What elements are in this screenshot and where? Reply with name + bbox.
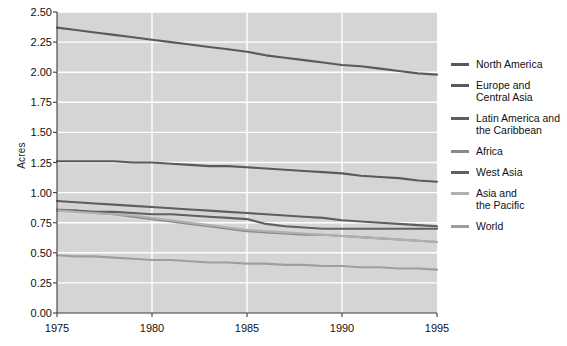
legend-item-label: Europe and Central Asia bbox=[476, 79, 533, 103]
legend-swatch-icon bbox=[451, 150, 469, 153]
chart-legend: North AmericaEurope and Central AsiaLati… bbox=[451, 58, 567, 241]
legend-swatch-icon bbox=[451, 225, 469, 228]
legend-item-label: Asia and the Pacific bbox=[476, 187, 524, 211]
legend-swatch-icon bbox=[451, 117, 469, 120]
legend-item[interactable]: Africa bbox=[451, 145, 567, 157]
x-axis-tick-label: 1985 bbox=[235, 322, 259, 334]
legend-item[interactable]: West Asia bbox=[451, 166, 567, 178]
legend-item-label: North America bbox=[476, 58, 543, 70]
legend-item-label: West Asia bbox=[476, 166, 523, 178]
legend-item[interactable]: Asia and the Pacific bbox=[451, 187, 567, 211]
legend-swatch-icon bbox=[451, 63, 469, 66]
x-axis-tick-label: 1975 bbox=[45, 322, 69, 334]
legend-item[interactable]: Europe and Central Asia bbox=[451, 79, 567, 103]
x-axis-tick-label: 1990 bbox=[330, 322, 354, 334]
x-axis-tick-label: 1995 bbox=[425, 322, 449, 334]
legend-item[interactable]: North America bbox=[451, 58, 567, 70]
legend-item-label: World bbox=[476, 220, 503, 232]
x-axis-tick-label: 1980 bbox=[140, 322, 164, 334]
legend-item[interactable]: Latin America and the Caribbean bbox=[451, 112, 567, 136]
chart-container: Acres 0.000.250.500.751.001.251.501.752.… bbox=[0, 0, 567, 346]
legend-item-label: Latin America and the Caribbean bbox=[476, 112, 560, 136]
legend-swatch-icon bbox=[451, 192, 469, 195]
legend-item-label: Africa bbox=[476, 145, 503, 157]
legend-item[interactable]: World bbox=[451, 220, 567, 232]
legend-swatch-icon bbox=[451, 84, 469, 87]
legend-swatch-icon bbox=[451, 171, 469, 174]
